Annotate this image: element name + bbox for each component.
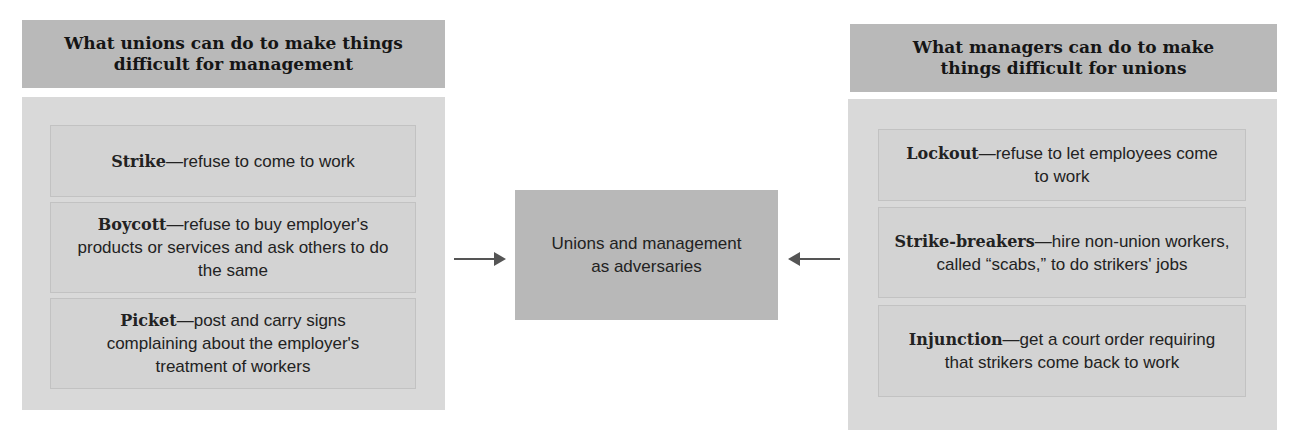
- left-item-strike: Strike—refuse to come to work: [50, 125, 416, 197]
- right-item-injunction: Injunction—get a court order requiring t…: [878, 305, 1246, 397]
- left-item-picket: Picket—post and carry signs complaining …: [50, 298, 416, 389]
- center-label: Unions and management as adversaries: [552, 232, 742, 278]
- left-title: What unions can do to make things diffic…: [64, 33, 404, 75]
- item-term: Picket: [120, 311, 177, 330]
- right-item-strike-breakers: Strike-breakers—hire non-union workers, …: [878, 207, 1246, 298]
- right-panel: Lockout—refuse to let employees come to …: [848, 99, 1277, 430]
- left-panel: Strike—refuse to come to work Boycott—re…: [22, 97, 445, 410]
- right-title: What managers can do to make things diff…: [894, 37, 1234, 79]
- item-desc: —refuse to let employees come to work: [979, 144, 1218, 186]
- left-item-boycott: Boycott—refuse to buy employer's product…: [50, 202, 416, 293]
- center-box: Unions and management as adversaries: [515, 190, 778, 320]
- arrow-right-icon: [452, 250, 508, 268]
- right-item-lockout: Lockout—refuse to let employees come to …: [878, 129, 1246, 201]
- item-term: Strike-breakers: [895, 232, 1035, 251]
- item-term: Boycott: [98, 215, 167, 234]
- right-header: What managers can do to make things diff…: [850, 24, 1277, 92]
- item-term: Injunction: [909, 330, 1003, 349]
- item-term: Lockout: [906, 144, 978, 163]
- left-header: What unions can do to make things diffic…: [22, 20, 445, 88]
- item-desc: —refuse to come to work: [166, 152, 355, 171]
- arrow-left-icon: [786, 250, 842, 268]
- item-term: Strike: [111, 152, 166, 171]
